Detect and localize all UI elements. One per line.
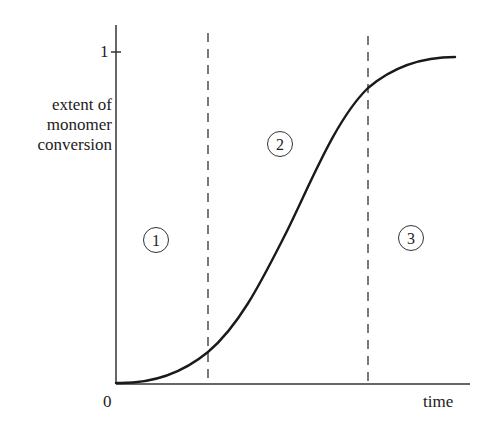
y-axis-label-line-2: monomer xyxy=(0,115,112,135)
y-axis-label: extent of monomer conversion xyxy=(0,95,112,155)
region-2-marker: 2 xyxy=(267,131,293,157)
conversion-curve xyxy=(116,57,455,383)
conversion-diagram xyxy=(0,0,493,431)
region-3-marker: 3 xyxy=(398,225,424,251)
region-1-marker: 1 xyxy=(143,227,169,253)
x-axis-label: time xyxy=(423,392,453,412)
x-origin-label: 0 xyxy=(103,392,112,412)
y-tick-label-one: 1 xyxy=(100,42,109,62)
y-axis-label-line-1: extent of xyxy=(0,95,112,115)
y-axis-label-line-3: conversion xyxy=(0,135,112,155)
